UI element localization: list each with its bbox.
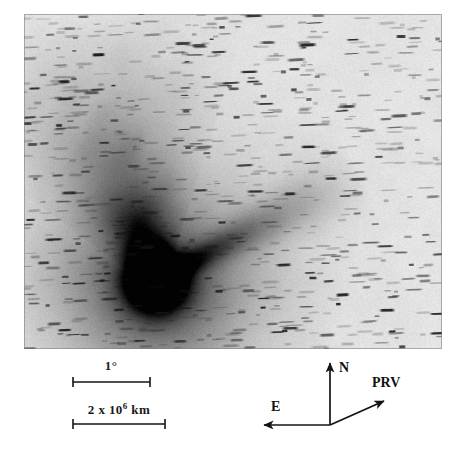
linear-scale-bar-graphic xyxy=(65,411,173,437)
compass-label-prv: PRV xyxy=(372,375,400,391)
comet-plate-canvas xyxy=(24,14,442,349)
angular-scale-bar-graphic xyxy=(65,369,158,395)
comet-figure: 1° 2 x 106 km N E PRV xyxy=(0,0,464,453)
compass-label-east: E xyxy=(271,399,280,415)
compass-label-north: N xyxy=(339,360,349,376)
compass-rose-graphic xyxy=(252,351,396,437)
comet-plate-image xyxy=(24,14,442,349)
